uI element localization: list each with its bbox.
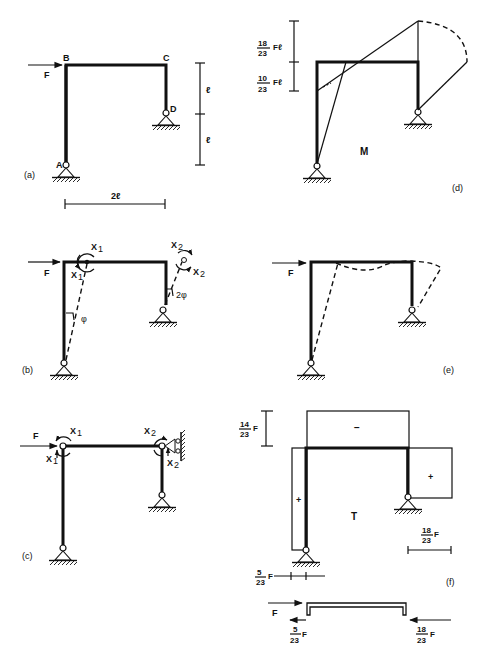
svg-text:18: 18 bbox=[417, 625, 426, 634]
x1-label-top: X bbox=[91, 242, 97, 252]
beam-sign: − bbox=[354, 422, 360, 433]
moment-x1-arc bbox=[56, 437, 71, 441]
lower-unit: Fℓ bbox=[273, 78, 282, 87]
panel-a: F B C D A (a) ℓ ℓ 2ℓ bbox=[24, 53, 211, 209]
caption-b: (b) bbox=[22, 365, 33, 375]
caption-e: (e) bbox=[443, 365, 454, 375]
caption-d: (d) bbox=[452, 183, 463, 193]
pin-support-c-right bbox=[148, 492, 176, 512]
svg-text:23: 23 bbox=[422, 536, 431, 545]
load-label: F bbox=[44, 70, 50, 80]
caption-c: (c) bbox=[22, 551, 33, 561]
pin-support-e-left bbox=[297, 360, 325, 380]
node-a-label: A bbox=[56, 160, 63, 170]
caption-a: (a) bbox=[24, 170, 35, 180]
svg-text:F: F bbox=[253, 424, 258, 433]
panel-f: − + + T 14 23 F 18 23 F 5 23 F (f) F 5 bbox=[239, 411, 455, 645]
svg-text:F: F bbox=[302, 630, 307, 639]
node-c-label: C bbox=[163, 53, 170, 63]
svg-text:F: F bbox=[430, 630, 435, 639]
svg-text:F: F bbox=[33, 431, 39, 441]
angle-phi-label: φ bbox=[81, 314, 87, 324]
moment-label: M bbox=[360, 146, 368, 157]
svg-text:23: 23 bbox=[290, 636, 299, 645]
pin-support-c-left bbox=[49, 545, 77, 565]
panel-e: F (e) bbox=[272, 261, 454, 380]
deflected-column-left bbox=[312, 263, 338, 360]
svg-text:2: 2 bbox=[200, 269, 205, 279]
svg-text:F: F bbox=[288, 268, 294, 278]
svg-text:2: 2 bbox=[151, 428, 156, 438]
right-column-sign: + bbox=[428, 472, 433, 482]
lower-num: 10 bbox=[258, 74, 267, 83]
panel-d: 18 23 Fℓ 10 23 Fℓ M (d) bbox=[257, 21, 467, 193]
dim-upper-label: ℓ bbox=[206, 85, 211, 95]
pin-support-b-right bbox=[149, 307, 177, 327]
node-d-label: D bbox=[170, 104, 177, 114]
caption-f: (f) bbox=[446, 577, 455, 587]
frame-a bbox=[66, 65, 166, 162]
upper-unit: Fℓ bbox=[273, 43, 282, 52]
x2-label-top: X bbox=[171, 240, 177, 250]
svg-text:1: 1 bbox=[98, 244, 103, 254]
svg-text:5: 5 bbox=[293, 625, 298, 634]
deflected-shape bbox=[336, 261, 441, 307]
dim-lower-label: ℓ bbox=[206, 135, 211, 145]
x2-label-right: X bbox=[167, 458, 173, 468]
node-b-label: B bbox=[63, 53, 70, 63]
svg-text:2: 2 bbox=[174, 460, 179, 470]
svg-text:23: 23 bbox=[240, 430, 249, 439]
upper-den: 23 bbox=[258, 49, 267, 58]
x2-label-right: X bbox=[193, 267, 199, 277]
svg-text:1: 1 bbox=[77, 428, 82, 438]
x1-label-top: X bbox=[70, 426, 76, 436]
frame-f bbox=[306, 448, 408, 549]
svg-text:F: F bbox=[44, 268, 50, 278]
angle-2phi-label: 2φ bbox=[176, 290, 187, 300]
x1-label-left: X bbox=[71, 270, 77, 280]
pin-support-d-left bbox=[303, 163, 331, 183]
svg-text:23: 23 bbox=[256, 578, 265, 587]
svg-text:1: 1 bbox=[53, 456, 58, 466]
panel-b: F X 1 X 1 X 2 X 2 φ 2φ (b) bbox=[22, 240, 205, 380]
svg-text:2: 2 bbox=[178, 242, 183, 252]
x2-label-top: X bbox=[144, 426, 150, 436]
svg-text:F: F bbox=[434, 530, 439, 539]
upper-num: 18 bbox=[258, 39, 267, 48]
moment-line bbox=[317, 62, 346, 164]
pin-support-e-right bbox=[398, 307, 426, 327]
panel-c: F X 1 X 1 X 2 X 2 (c) bbox=[20, 426, 185, 565]
svg-text:F: F bbox=[272, 608, 278, 618]
svg-text:14: 14 bbox=[240, 420, 249, 429]
pin-support-f-right bbox=[394, 494, 422, 514]
svg-text:1: 1 bbox=[78, 272, 83, 282]
frame-e bbox=[311, 262, 412, 361]
pin-support-d-right bbox=[404, 109, 432, 129]
shear-label: T bbox=[351, 511, 357, 522]
frame-c bbox=[63, 446, 162, 545]
left-column-sign: + bbox=[296, 495, 301, 505]
svg-text:23: 23 bbox=[417, 636, 426, 645]
lower-den: 23 bbox=[258, 85, 267, 94]
x1-label-left: X bbox=[46, 454, 52, 464]
frame-analysis-figure: F B C D A (a) ℓ ℓ 2ℓ 18 2 bbox=[0, 0, 485, 660]
horizontal-roller-support bbox=[165, 430, 185, 461]
svg-text:F: F bbox=[268, 572, 273, 581]
svg-text:18: 18 bbox=[422, 526, 431, 535]
moment-curve bbox=[418, 21, 467, 62]
pin-support-b-left bbox=[50, 360, 78, 380]
beam-free-body bbox=[307, 603, 406, 615]
dim-width-label: 2ℓ bbox=[111, 191, 121, 201]
svg-text:5: 5 bbox=[257, 568, 262, 577]
